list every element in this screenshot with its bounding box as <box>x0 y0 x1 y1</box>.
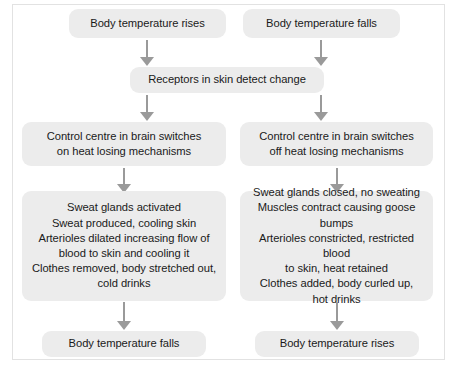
frame-border-right <box>444 4 445 360</box>
node-control-centre-heat-losing-off: Control centre in brain switches off hea… <box>240 122 433 166</box>
arrow-control-left-to-effects-left <box>117 168 131 193</box>
node-body-temperature-falls-bottom: Body temperature falls <box>42 331 206 357</box>
flowchart-diagram: Body temperature rises Body temperature … <box>0 0 454 372</box>
node-body-temperature-falls-top: Body temperature falls <box>243 9 400 38</box>
frame-border-bottom <box>12 359 445 360</box>
arrow-effects-left-to-bottom-left <box>117 302 131 330</box>
arrow-top-right-to-receptors <box>314 40 328 66</box>
node-heat-loss-effects: Sweat glands activated Sweat produced, c… <box>22 191 226 301</box>
arrow-receptors-to-control-right <box>314 95 328 121</box>
arrow-effects-right-to-bottom-right <box>330 302 344 330</box>
arrow-top-left-to-receptors <box>140 40 154 66</box>
node-control-centre-heat-losing-on: Control centre in brain switches on heat… <box>22 122 226 166</box>
frame-border-top <box>12 4 445 5</box>
node-body-temperature-rises-top: Body temperature rises <box>69 9 226 38</box>
node-heat-conservation-effects: Sweat glands closed, no sweating Muscles… <box>240 191 433 301</box>
node-body-temperature-rises-bottom: Body temperature rises <box>255 331 419 357</box>
frame-border-left <box>12 4 13 360</box>
node-receptors-in-skin-detect-change: Receptors in skin detect change <box>130 67 324 93</box>
arrow-receptors-to-control-left <box>140 95 154 121</box>
